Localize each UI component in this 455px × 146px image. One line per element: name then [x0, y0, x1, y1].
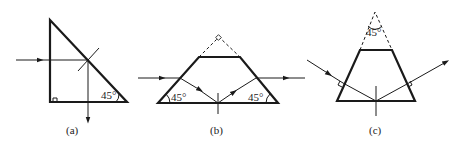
reflected-ray-up — [376, 84, 407, 101]
angle-arc — [116, 94, 119, 102]
panel-b: 45° 45° (b) — [138, 35, 305, 137]
panel-a: 45° (a) — [16, 20, 127, 137]
refracted-ray-down — [198, 89, 218, 103]
reflected-ray-up-arrow — [218, 92, 234, 103]
refracted-ray-down — [343, 83, 376, 101]
apex-extension — [199, 37, 240, 57]
incident-ray — [327, 73, 343, 83]
apex-angle-label: 45° — [366, 26, 381, 38]
angle-label: 45° — [101, 89, 116, 101]
angle-arc-left — [166, 94, 170, 103]
panel-c: 45° (c) — [307, 12, 446, 137]
refracted-ray-down-arrow — [180, 78, 200, 90]
angle-label-right: 45° — [248, 91, 263, 103]
incident-ray-arrow — [307, 60, 329, 74]
caption-c: (c) — [369, 124, 382, 137]
caption-b: (b) — [210, 124, 223, 137]
exit-ray — [407, 62, 446, 84]
caption-a: (a) — [66, 124, 79, 137]
angle-label-left: 45° — [171, 91, 186, 103]
angle-arc-right — [266, 94, 270, 103]
prism-diagram: 45° (a) 45° 45° (b) 45° (c) — [0, 0, 455, 146]
